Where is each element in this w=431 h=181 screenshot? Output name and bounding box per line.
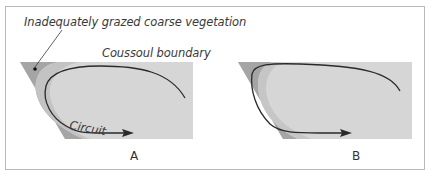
vegetation-annotation: Inadequately grazed coarse vegetation <box>24 15 246 29</box>
boundary-annotation: Coussoul boundary <box>102 46 211 60</box>
annotation-leader-line <box>35 30 62 67</box>
annotation-dot <box>33 67 37 71</box>
panel-label-b: B <box>352 149 360 163</box>
panel-label-a: A <box>130 149 138 163</box>
panel-b-diagram <box>238 62 412 139</box>
